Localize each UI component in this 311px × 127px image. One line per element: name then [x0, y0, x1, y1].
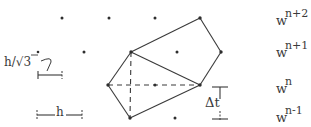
grid-point-vertex-d [198, 83, 201, 86]
half-spacing-label: h/√3 [4, 55, 31, 69]
level-superscript: n-1 [285, 104, 303, 117]
time-step-scale: Δt [205, 87, 228, 120]
grid-point [176, 51, 179, 54]
level-label-n-plus-2: w n+2 [276, 7, 308, 28]
stencil-diagram: h/√3 h Δt w n+2 w n+1 w [0, 0, 311, 127]
level-label-n-minus-1: w n-1 [276, 104, 303, 125]
grid-point [154, 17, 157, 20]
grid-point [174, 117, 177, 120]
time-step-label: Δt [205, 95, 220, 110]
edge-a-d [131, 52, 200, 85]
level-superscript: n+2 [285, 7, 308, 20]
edge-c-d [200, 52, 221, 85]
grid-point [154, 84, 157, 87]
grid-point [37, 51, 40, 54]
grid-point-vertex-f [106, 83, 109, 86]
time-level-labels: w n+2 w n+1 w n w n-1 [276, 7, 308, 125]
grid-point-vertex-b [198, 16, 201, 19]
half-spacing-scale: h/√3 [4, 55, 62, 79]
grid-point-vertex-c [219, 50, 222, 53]
grid-point [108, 17, 111, 20]
level-label-n-plus-1: w n+1 [276, 39, 308, 60]
edge-a-b [131, 18, 200, 52]
grid-point [61, 17, 64, 20]
hook-arrow-icon [41, 59, 51, 71]
level-label-n: w n [276, 75, 292, 96]
edge-f-e [108, 85, 130, 118]
grid-points [37, 16, 223, 119]
edge-b-c [200, 18, 221, 52]
grid-point-vertex-e [128, 116, 131, 119]
level-superscript: n+1 [285, 39, 308, 52]
edge-e-d [130, 85, 200, 118]
spacing-scale: h [37, 105, 82, 120]
grid-point [83, 51, 86, 54]
level-superscript: n [285, 75, 292, 88]
grid-point-vertex-a [129, 50, 132, 53]
spacing-label: h [56, 105, 64, 119]
edge-a-f [108, 52, 131, 85]
